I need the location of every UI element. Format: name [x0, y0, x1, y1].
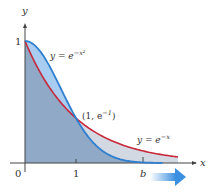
gaussian-equation-base: y = e [49, 51, 74, 61]
intersection-point-label: (1, e−1) [82, 109, 115, 121]
gaussian-equation-exponent: −x² [74, 49, 86, 57]
improper-integral-comparison-diagram: y x 0 1 b 1 y = e−x² y = e−x (1, e−1) [0, 0, 208, 193]
y-axis-label: y [21, 5, 28, 16]
exponential-equation-label: y = e−x [136, 133, 170, 145]
exponential-equation-base: y = e [136, 135, 161, 145]
y-axis-arrowhead-icon [23, 23, 27, 28]
exponential-equation-exponent: −x [161, 133, 170, 141]
y-tick-1-label: 1 [15, 36, 21, 47]
x-axis-label: x [200, 157, 206, 168]
x-axis-arrowhead-icon [192, 161, 197, 165]
x-tick-b-label: b [140, 168, 146, 179]
x-tick-1-label: 1 [73, 168, 79, 179]
b-to-infinity-arrow-icon [150, 168, 186, 186]
origin-label: 0 [15, 168, 21, 179]
gaussian-equation-label: y = e−x² [49, 49, 86, 61]
